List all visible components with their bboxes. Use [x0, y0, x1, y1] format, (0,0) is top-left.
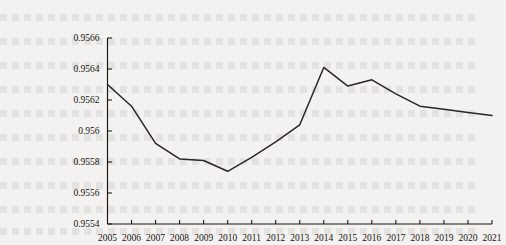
chart-canvas: 0.95660.95640.95620.9560.95580.95560.955…	[40, 16, 506, 245]
x-tick-label: 2021	[483, 233, 502, 243]
line-chart: 0.95660.95640.95620.9560.95580.95560.955…	[40, 16, 438, 224]
x-axis-tick-labels: 2005200620072008200920102011201220132014…	[98, 233, 502, 243]
x-tick-label: 2008	[170, 233, 189, 243]
x-tick-label: 2020	[458, 233, 477, 243]
y-axis-tick-labels: 0.95660.95640.95620.9560.95580.95560.955…	[73, 33, 99, 229]
x-tick-label: 2006	[122, 233, 141, 243]
x-tick-label: 2017	[386, 233, 405, 243]
y-tick-label: 0.956	[78, 126, 100, 136]
x-tick-label: 2011	[242, 233, 261, 243]
y-axis-tick-marks	[108, 38, 113, 224]
y-tick-label: 0.9564	[73, 64, 99, 74]
x-tick-label: 2013	[290, 233, 309, 243]
y-tick-label: 0.9558	[73, 157, 99, 167]
x-tick-label: 2012	[266, 233, 285, 243]
x-axis-tick-marks	[108, 220, 493, 224]
x-tick-label: 2009	[194, 233, 213, 243]
x-tick-label: 2005	[98, 233, 117, 243]
x-tick-label: 2010	[218, 233, 237, 243]
data-series-line	[108, 67, 493, 171]
x-tick-label: 2007	[146, 233, 165, 243]
x-tick-label: 2018	[410, 233, 429, 243]
y-tick-label: 0.9562	[73, 95, 99, 105]
x-tick-label: 2014	[314, 233, 333, 243]
x-tick-label: 2019	[434, 233, 453, 243]
y-tick-label: 0.9554	[73, 219, 99, 229]
y-tick-label: 0.9566	[73, 33, 99, 43]
x-tick-label: 2015	[338, 233, 357, 243]
y-tick-label: 0.9556	[73, 188, 99, 198]
x-tick-label: 2016	[362, 233, 381, 243]
